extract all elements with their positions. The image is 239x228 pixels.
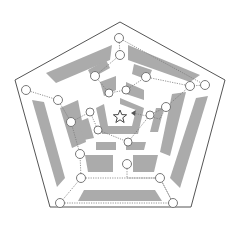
node xyxy=(54,96,63,105)
node xyxy=(169,199,178,208)
node xyxy=(94,126,102,134)
node xyxy=(146,111,154,119)
node xyxy=(186,82,195,91)
node xyxy=(123,160,132,169)
node xyxy=(91,72,100,81)
node xyxy=(76,150,85,159)
node xyxy=(124,138,132,146)
node xyxy=(67,118,76,127)
node xyxy=(56,199,65,208)
node xyxy=(162,103,171,112)
node xyxy=(105,89,113,97)
node xyxy=(201,81,210,90)
node xyxy=(115,34,124,43)
node xyxy=(122,86,130,94)
node xyxy=(22,86,31,95)
node xyxy=(116,51,125,60)
maze-diagram xyxy=(0,0,239,228)
node xyxy=(142,73,151,82)
node xyxy=(156,174,165,183)
node xyxy=(77,174,86,183)
node xyxy=(86,108,94,116)
